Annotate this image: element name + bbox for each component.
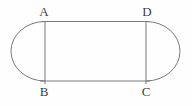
vertex-label-D: D [142,4,151,19]
right-semicircle-arc [146,22,180,82]
left-semicircle-arc [11,22,45,82]
vertex-label-B: B [40,84,49,99]
vertex-label-C: C [142,84,151,99]
stadium-diagram: A D B C [0,0,192,106]
geometry-figure: A D B C [0,0,192,106]
vertex-label-A: A [39,4,49,19]
